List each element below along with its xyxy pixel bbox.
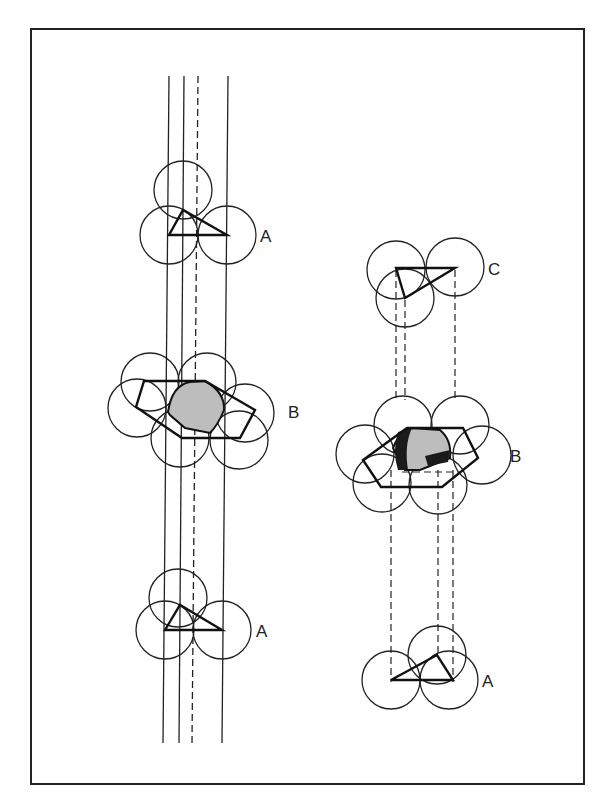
shaded-void <box>168 381 224 433</box>
layer-label: A <box>256 622 268 641</box>
layer-label: C <box>488 260 500 279</box>
layer-a-top <box>140 161 256 264</box>
right-stack: C B A <box>336 238 521 709</box>
layer-b-middle <box>336 396 511 514</box>
layer-label: B <box>288 403 299 422</box>
layer-a-bottom <box>362 626 478 709</box>
layer-label: A <box>260 227 272 246</box>
left-stack: A B A <box>108 76 299 743</box>
layer-b-middle <box>108 353 274 469</box>
layer-label: B <box>510 447 521 466</box>
layer-label: A <box>482 672 494 691</box>
sphere <box>453 426 511 484</box>
triangle-void <box>391 655 453 680</box>
figure-frame <box>31 29 584 784</box>
sphere <box>149 569 207 627</box>
stacking-diagram: A B A <box>0 0 614 811</box>
layer-c-top <box>367 238 484 327</box>
